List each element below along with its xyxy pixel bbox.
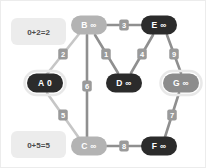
node-f[interactable]: F ∞ xyxy=(141,137,177,156)
callout-c-text: 0+5=5 xyxy=(27,141,50,150)
edge-weight-label: 3 xyxy=(122,21,126,30)
node-b[interactable]: B ∞ xyxy=(71,16,107,35)
edge-weight-b-d: 1 xyxy=(101,49,111,60)
callout-b-text: 0+2=2 xyxy=(27,28,50,37)
edge-weight-label: 6 xyxy=(85,82,89,91)
node-label-a: A 0 xyxy=(38,78,52,88)
edge-weight-e-g: 9 xyxy=(169,49,179,60)
node-label-d: D ∞ xyxy=(116,78,131,88)
edge-weight-a-b: 2 xyxy=(58,49,68,60)
node-label-e: E ∞ xyxy=(152,20,167,30)
graph-svg: 251634978 A 0B ∞C ∞D ∞E ∞F ∞G ∞ 0+2=20+5… xyxy=(1,1,206,168)
edge-weight-b-c: 6 xyxy=(82,81,92,92)
edge-weight-c-f: 8 xyxy=(119,141,129,152)
node-g[interactable]: G ∞ xyxy=(161,71,202,95)
node-label-g: G ∞ xyxy=(173,78,189,88)
node-c[interactable]: C ∞ xyxy=(71,137,107,156)
edge-weight-e-d: 4 xyxy=(137,49,147,60)
edge-weight-label: 8 xyxy=(122,142,126,151)
edge-weight-g-f: 7 xyxy=(167,110,177,121)
node-label-c: C ∞ xyxy=(81,141,96,151)
diagram-canvas: 251634978 A 0B ∞C ∞D ∞E ∞F ∞G ∞ 0+2=20+5… xyxy=(0,0,206,168)
node-label-b: B ∞ xyxy=(81,20,96,30)
edge-weight-a-c: 5 xyxy=(58,110,68,121)
node-label-f: F ∞ xyxy=(152,141,167,151)
edge-weight-label: 7 xyxy=(170,111,174,120)
callout-c: 0+5=5 xyxy=(11,131,66,158)
edge-weight-label: 5 xyxy=(61,111,65,120)
node-a[interactable]: A 0 xyxy=(25,71,66,95)
node-e[interactable]: E ∞ xyxy=(141,16,177,35)
callout-b: 0+2=2 xyxy=(11,18,66,45)
node-d[interactable]: D ∞ xyxy=(106,74,142,93)
edge-weight-label: 1 xyxy=(104,50,108,59)
edge-weight-label: 9 xyxy=(172,50,176,59)
edge-weight-b-e: 3 xyxy=(119,20,129,31)
edge-weight-label: 2 xyxy=(61,50,65,59)
